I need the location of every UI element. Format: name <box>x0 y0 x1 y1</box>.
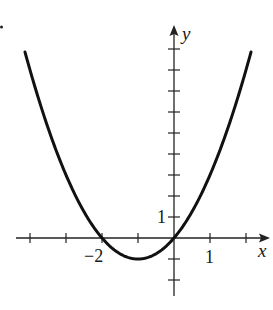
parabola-curve <box>25 52 251 259</box>
y-axis <box>168 25 180 296</box>
x-axis <box>16 233 270 243</box>
y-axis-label: y <box>180 23 191 44</box>
y-tick-label-1: 1 <box>157 207 166 227</box>
stray-dot <box>0 26 3 29</box>
x-tick-label-neg2: −2 <box>84 246 103 266</box>
parabola-graph: y x −2 1 1 <box>0 0 273 310</box>
x-axis-label: x <box>257 240 267 261</box>
x-tick-label-1: 1 <box>205 247 214 267</box>
